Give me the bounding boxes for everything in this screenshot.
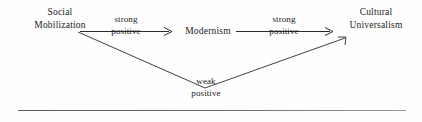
bottom-horizontal-rule: [18, 110, 406, 111]
edge-strength-strong-2: strong: [256, 14, 312, 26]
edge-label-social-mobilization-to-cultural-universalism: weak positive: [178, 76, 234, 99]
node-social-mobilization-line1: Social: [14, 6, 106, 19]
edge-label-social-mobilization-to-modernism: strong positive: [98, 14, 154, 37]
node-modernism-line1: Modernism: [176, 25, 240, 38]
node-cultural-universalism: Cultural Universalism: [330, 6, 422, 31]
edge-direction-positive-3: positive: [178, 88, 234, 100]
node-cultural-universalism-line1: Cultural: [330, 6, 422, 19]
node-social-mobilization-line2: Mobilization: [14, 19, 106, 32]
edge-direction-positive: positive: [98, 26, 154, 38]
edge-label-modernism-to-cultural-universalism: strong positive: [256, 14, 312, 37]
node-cultural-universalism-line2: Universalism: [330, 19, 422, 32]
edge-strength-weak: weak: [178, 76, 234, 88]
node-social-mobilization: Social Mobilization: [14, 6, 106, 31]
edge-direction-positive-2: positive: [256, 26, 312, 38]
edge-strength-strong: strong: [98, 14, 154, 26]
node-modernism: Modernism: [176, 25, 240, 38]
causal-diagram: Social Mobilization Modernism Cultural U…: [0, 0, 422, 122]
